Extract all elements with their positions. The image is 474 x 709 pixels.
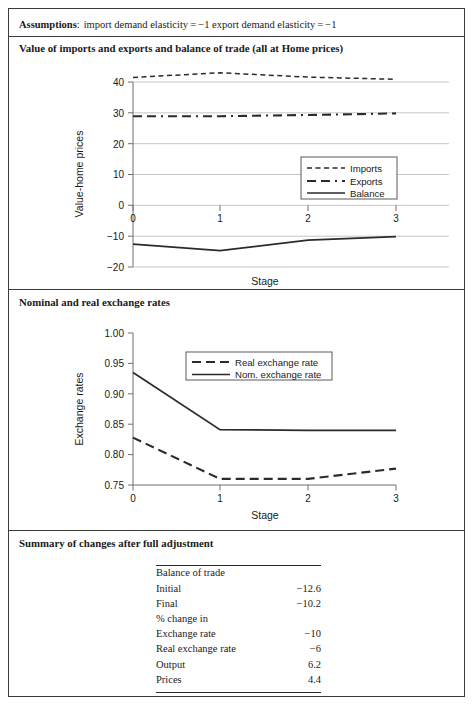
table-row: Initial −12.6 — [156, 581, 321, 596]
legend-label-nominal-exchange-rate: Nom. exchange rate — [235, 369, 321, 380]
legend-label-imports: Imports — [350, 163, 382, 174]
x-tick-label: 3 — [393, 213, 399, 224]
row-value — [283, 612, 321, 627]
x-axis-title-chart2: Stage — [251, 509, 279, 521]
y-tick-label: −20 — [107, 262, 124, 273]
x-tick-label: 2 — [305, 493, 311, 504]
table-row: Exchange rate −10 — [156, 627, 321, 642]
row-label: Real exchange rate — [156, 642, 283, 657]
x-tick-label: 1 — [217, 493, 223, 504]
divider-assumptions — [9, 36, 464, 37]
summary-table: Balance of trade Initial −12.6 Final −10… — [156, 565, 321, 693]
row-label: Prices — [156, 672, 283, 687]
table-row: % change in — [156, 612, 321, 627]
legend-label-balance: Balance — [350, 188, 385, 199]
row-value: −12.6 — [283, 581, 321, 596]
y-axis-chart2 — [128, 333, 133, 485]
row-value: −10.2 — [283, 596, 321, 611]
series-real-exchange-rate-line — [133, 438, 396, 479]
x-tick-label: 0 — [130, 213, 136, 224]
y-tick-label: 0.75 — [105, 480, 125, 491]
y-tick-label: 0 — [118, 200, 124, 211]
section-title-2: Nominal and real exchange rates — [19, 296, 170, 309]
section-title-3: Summary of changes after full adjustment — [19, 537, 213, 550]
y-axis-title-chart1: Value-home prices — [73, 131, 85, 218]
y-tick-label: 0.95 — [105, 358, 125, 369]
x-axis-chart1 — [133, 205, 396, 211]
chart-trade-balance-svg: 40 30 20 10 0 −10 −20 0 1 2 3 — [9, 61, 466, 289]
x-tick-label: 0 — [130, 493, 136, 504]
divider-section-3 — [9, 530, 464, 531]
x-tick-label: 2 — [305, 213, 311, 224]
table-row: Real exchange rate −6 — [156, 642, 321, 657]
series-exports-line — [133, 113, 396, 116]
legend-chart2: Real exchange rate Nom. exchange rate — [186, 352, 332, 380]
row-label: Initial — [156, 581, 283, 596]
assumptions-text: import demand elasticity = −1 export dem… — [80, 19, 337, 30]
table-row: Output 6.2 — [156, 657, 321, 672]
row-value: 4.4 — [283, 672, 321, 687]
row-label: Balance of trade — [156, 566, 283, 581]
y-tick-label: 1.00 — [105, 328, 125, 339]
table-row: Prices 4.4 — [156, 672, 321, 687]
row-value: 6.2 — [283, 657, 321, 672]
y-tick-label: 0.90 — [105, 389, 125, 400]
divider-section-2 — [9, 289, 464, 290]
table-row: Final −10.2 — [156, 596, 321, 611]
table-rule-bottom — [156, 692, 321, 693]
row-value: −6 — [283, 642, 321, 657]
y-axis-chart1 — [128, 82, 133, 267]
y-tick-label: 0.80 — [105, 449, 125, 460]
table-row: Balance of trade — [156, 566, 321, 581]
series-imports-line — [133, 73, 396, 80]
y-tick-labels-chart2: 1.00 0.95 0.90 0.85 0.80 0.75 — [105, 328, 125, 491]
row-label: Final — [156, 596, 283, 611]
y-tick-label: 20 — [113, 139, 125, 150]
y-tick-label: 0.85 — [105, 419, 125, 430]
y-tick-labels-chart1: 40 30 20 10 0 −10 −20 — [107, 77, 124, 273]
summary-table-body: Balance of trade Initial −12.6 Final −10… — [156, 566, 321, 688]
series-balance-line — [133, 237, 396, 251]
chart-exchange-rates: 1.00 0.95 0.90 0.85 0.80 0.75 0 1 2 3 — [9, 317, 466, 529]
figure-panel: Assumptions:import demand elasticity = −… — [8, 8, 465, 697]
row-label: Output — [156, 657, 283, 672]
row-value — [283, 566, 321, 581]
row-label: % change in — [156, 612, 283, 627]
assumptions-label: Assumptions — [19, 19, 77, 30]
gridlines-chart1 — [133, 82, 449, 267]
chart-exchange-rates-svg: 1.00 0.95 0.90 0.85 0.80 0.75 0 1 2 3 — [9, 317, 466, 529]
x-axis-chart2 — [133, 485, 396, 491]
series-nominal-exchange-rate-line — [133, 373, 396, 431]
x-tick-label: 1 — [217, 213, 223, 224]
chart-trade-balance: 40 30 20 10 0 −10 −20 0 1 2 3 — [9, 61, 466, 289]
y-tick-label: 40 — [113, 77, 125, 88]
legend-chart1: Imports Exports Balance — [301, 157, 397, 199]
legend-label-real-exchange-rate: Real exchange rate — [235, 357, 318, 368]
section-title-1: Value of imports and exports and balance… — [19, 42, 343, 55]
legend-label-exports: Exports — [350, 176, 383, 187]
y-tick-label: −10 — [107, 231, 124, 242]
y-tick-label: 30 — [113, 108, 125, 119]
y-axis-title-chart2: Exchange rates — [73, 373, 85, 446]
row-value: −10 — [283, 627, 321, 642]
y-tick-label: 10 — [113, 169, 125, 180]
x-axis-title-chart1: Stage — [251, 275, 279, 287]
x-tick-labels-chart2: 0 1 2 3 — [130, 493, 399, 504]
assumptions-header: Assumptions:import demand elasticity = −… — [19, 18, 337, 31]
x-tick-labels-chart1: 0 1 2 3 — [130, 213, 399, 224]
x-tick-label: 3 — [393, 493, 399, 504]
row-label: Exchange rate — [156, 627, 283, 642]
